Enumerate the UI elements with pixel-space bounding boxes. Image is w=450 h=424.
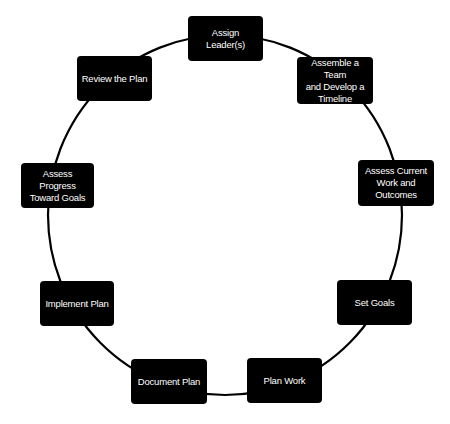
node-document-plan: Document Plan: [131, 359, 207, 404]
node-label: Document Plan: [138, 376, 200, 388]
node-review-plan: Review the Plan: [77, 56, 152, 101]
node-implement-plan: Implement Plan: [40, 281, 114, 326]
node-label: Assemble a Team and Develop a Timeline: [300, 57, 370, 105]
node-assign-leaders: Assign Leader(s): [188, 16, 263, 61]
node-plan-work: Plan Work: [247, 358, 322, 403]
node-label: Set Goals: [355, 297, 395, 309]
node-label: Plan Work: [264, 375, 306, 387]
node-label: Review the Plan: [82, 73, 148, 85]
node-set-goals: Set Goals: [337, 280, 412, 325]
node-label: Assign Leader(s): [206, 27, 245, 51]
node-assess-progress: Assess Progress Toward Goals: [21, 163, 94, 208]
node-label: Assess Progress Toward Goals: [24, 168, 91, 204]
cycle-ring: [0, 0, 450, 424]
node-assemble-team: Assemble a Team and Develop a Timeline: [297, 57, 373, 104]
node-label: Assess Current Work and Outcomes: [365, 165, 427, 201]
node-assess-current: Assess Current Work and Outcomes: [358, 160, 434, 206]
node-label: Implement Plan: [45, 298, 108, 310]
